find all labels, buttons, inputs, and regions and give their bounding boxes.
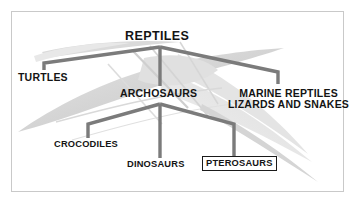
node-label-lizards-and-snakes: LIZARDS AND SNAKES <box>228 99 349 110</box>
node-label-turtles: TURTLES <box>18 72 68 83</box>
node-label-pterosaurs: PTEROSAURS <box>202 156 277 171</box>
node-label-crocodiles: CROCODILES <box>54 139 118 149</box>
node-label-marine-reptiles-lizards-and-snakes: MARINE REPTILES LIZARDS AND SNAKES <box>228 88 349 111</box>
node-label-reptiles: REPTILES <box>125 30 189 44</box>
node-label-archosaurs: ARCHOSAURS <box>120 88 197 99</box>
node-label-dinosaurs: DINOSAURS <box>127 159 185 169</box>
cladogram-figure: REPTILES TURTLES ARCHOSAURS MARINE REPTI… <box>0 0 355 205</box>
